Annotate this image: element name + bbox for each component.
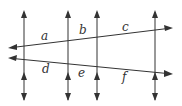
up-arrow-icon (152, 72, 158, 80)
label-a: a (41, 29, 48, 43)
down-arrow-icon (65, 93, 71, 101)
down-arrow-icon (152, 93, 158, 101)
vertical-line-1 (21, 10, 27, 101)
vertical-line-3 (94, 10, 100, 101)
label-c: c (122, 20, 129, 34)
down-arrow-icon (94, 93, 100, 101)
right-arrow-icon (164, 25, 173, 31)
parallel-lines-diagram: a b c d e f (0, 0, 182, 106)
up-arrow-icon (21, 10, 27, 18)
right-arrow-icon (164, 70, 173, 77)
label-f: f (121, 70, 129, 84)
upper-transversal (8, 25, 173, 50)
label-d: d (42, 62, 50, 76)
label-e: e (78, 66, 85, 80)
up-arrow-icon (65, 10, 71, 18)
up-arrow-icon (21, 72, 27, 80)
left-arrow-icon (8, 55, 17, 61)
up-arrow-icon (152, 10, 158, 18)
vertical-line-4 (152, 10, 158, 101)
up-arrow-icon (94, 10, 100, 18)
vertical-line-2 (65, 10, 71, 101)
lower-transversal (8, 55, 173, 77)
label-b: b (79, 23, 87, 37)
left-arrow-icon (8, 44, 17, 50)
up-arrow-icon (65, 72, 71, 80)
up-arrow-icon (94, 72, 100, 80)
down-arrow-icon (21, 93, 27, 101)
